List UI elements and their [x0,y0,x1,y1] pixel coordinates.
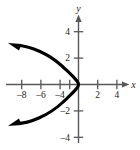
x-axis-arrowhead [122,81,130,87]
x-tick-label--4: –4 [54,90,65,100]
x-tick-label--8: –8 [16,90,27,100]
curve-arrowhead-upper [8,43,22,51]
y-tick-label-4: 4 [65,27,70,37]
x-axis-label: x [130,79,136,90]
y-tick-label--2: –2 [60,106,71,116]
curve-arrowhead-lower [8,119,22,127]
graph-figure: –8 –6 –4 2 4 4 2 –2 –4 x y [0,0,140,150]
y-tick-label-2: 2 [65,53,70,63]
x-tick-label-2: 2 [95,90,100,100]
x-tick-label-4: 4 [115,90,120,100]
coordinate-plane: –8 –6 –4 2 4 4 2 –2 –4 x y [0,0,140,150]
x-tick-label--6: –6 [35,90,46,100]
y-axis-label: y [75,3,81,14]
y-axis-arrowhead [75,15,81,23]
y-tick-label--4: –4 [60,133,71,143]
